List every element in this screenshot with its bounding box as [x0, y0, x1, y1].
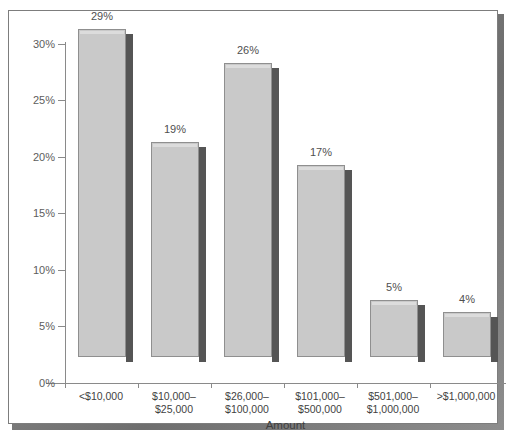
y-axis-line	[65, 42, 66, 384]
y-axis-tick-label: 15%	[11, 207, 55, 219]
x-axis-tick	[357, 383, 358, 388]
bar-value-label: 4%	[437, 293, 497, 305]
bar[interactable]	[370, 300, 418, 357]
bar-top-highlight	[80, 31, 124, 34]
bar-value-label: 26%	[218, 44, 278, 56]
bar-shadow	[126, 34, 133, 362]
y-axis-tick	[58, 213, 65, 214]
y-axis-tick	[58, 100, 65, 101]
bar-group: 17%	[297, 165, 352, 357]
x-axis-tick	[65, 383, 66, 388]
bar-group: 4%	[443, 312, 498, 357]
y-axis-tick-label: 10%	[11, 264, 55, 276]
bar-group: 5%	[370, 300, 425, 357]
bar[interactable]	[297, 165, 345, 357]
bar[interactable]	[443, 312, 491, 357]
chart-figure: 30% 25% 20% 15% 10% 5% 0% 29%	[0, 0, 512, 438]
bar-top-highlight	[445, 314, 489, 317]
x-axis-category-label: >$1,000,000	[411, 390, 512, 403]
y-axis-tick-label: 0%	[11, 377, 55, 389]
bar[interactable]	[224, 63, 272, 357]
y-axis-tick	[58, 157, 65, 158]
bar-shadow	[345, 170, 352, 362]
bar-shadow	[418, 305, 425, 362]
x-axis-title: Amount	[65, 419, 506, 431]
y-axis-tick	[58, 44, 65, 45]
x-axis-tick	[211, 383, 212, 388]
x-axis-tick	[138, 383, 139, 388]
bar-shadow	[199, 147, 206, 362]
chart-panel: 30% 25% 20% 15% 10% 5% 0% 29%	[8, 10, 498, 424]
y-axis-tick-label: 20%	[11, 151, 55, 163]
y-axis-tick-label: 30%	[11, 38, 55, 50]
bar[interactable]	[78, 29, 126, 357]
y-axis-tick	[58, 326, 65, 327]
bar-top-highlight	[372, 302, 416, 305]
bar-top-highlight	[153, 144, 197, 147]
y-axis-tick-label: 5%	[11, 320, 55, 332]
x-axis-line	[46, 383, 506, 384]
bar-top-highlight	[299, 167, 343, 170]
bar-value-label: 19%	[145, 123, 205, 135]
y-axis-tick	[58, 383, 65, 384]
bar-value-label: 17%	[291, 146, 351, 158]
x-axis-tick	[284, 383, 285, 388]
x-axis-tick	[430, 383, 431, 388]
bar-shadow	[272, 68, 279, 362]
bar[interactable]	[151, 142, 199, 357]
bar-value-label: 5%	[364, 281, 424, 293]
x-axis-tick	[503, 383, 504, 388]
y-axis-tick-label: 25%	[11, 94, 55, 106]
bar-group: 29%	[78, 29, 133, 357]
bar-value-label: 29%	[72, 10, 132, 22]
bar-group: 19%	[151, 142, 206, 357]
bar-group: 26%	[224, 63, 279, 357]
y-axis-tick	[58, 270, 65, 271]
bar-shadow	[491, 317, 498, 362]
bar-top-highlight	[226, 65, 270, 68]
